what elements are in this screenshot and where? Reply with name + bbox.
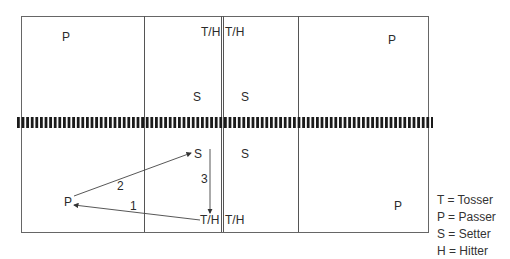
bottom-mid-right-setter: S <box>241 148 249 160</box>
top-right-passer: P <box>388 34 396 46</box>
bottom-mid-left-setter: S <box>194 148 202 160</box>
net <box>17 117 433 128</box>
legend-tosser: T = Tosser <box>437 192 496 209</box>
arrow-2-label: 2 <box>117 180 124 192</box>
top-mid-right-setter: S <box>241 91 249 103</box>
legend-setter: S = Setter <box>437 226 496 243</box>
top-left-passer: P <box>62 31 70 43</box>
legend: T = Tosser P = Passer S = Setter H = Hit… <box>437 192 496 259</box>
arrow-3-label: 3 <box>201 173 208 185</box>
bottom-mid-right-tosser-hitter: T/H <box>225 214 244 226</box>
arrow-1-label: 1 <box>130 200 137 212</box>
top-mid-left-tosser-hitter: T/H <box>201 26 220 38</box>
arrow-2 <box>74 153 191 196</box>
bottom-mid-left-tosser-hitter: T/H <box>200 214 219 226</box>
bottom-right-passer: P <box>394 200 402 212</box>
legend-passer: P = Passer <box>437 209 496 226</box>
legend-hitter: H = Hitter <box>437 243 496 259</box>
arrow-1 <box>74 205 200 220</box>
bottom-left-passer: P <box>64 196 72 208</box>
top-mid-left-setter: S <box>193 91 201 103</box>
top-mid-right-tosser-hitter: T/H <box>225 26 244 38</box>
